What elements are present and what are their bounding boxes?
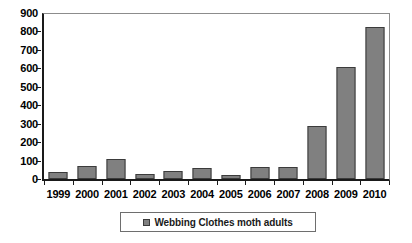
x-axis-tick-mark — [274, 181, 275, 185]
chart-legend: Webbing Clothes moth adults — [120, 212, 316, 232]
x-axis-tick-label: 2005 — [219, 188, 243, 201]
x-axis-tick-mark — [245, 181, 246, 185]
bar — [221, 175, 240, 179]
x-axis-tick-mark — [130, 181, 131, 185]
x-axis-tick-label: 2002 — [133, 188, 157, 201]
y-axis-tick-label: 400 — [0, 100, 38, 111]
bar — [336, 67, 355, 179]
bar — [135, 174, 154, 179]
bar — [164, 171, 183, 179]
bar-slot — [73, 13, 102, 179]
legend-swatch-icon — [143, 219, 150, 226]
y-axis-tick-label: 200 — [0, 137, 38, 148]
y-axis-tick-label: 700 — [0, 45, 38, 56]
x-axis-tick-mark — [188, 181, 189, 185]
bar-slot — [245, 13, 274, 179]
y-axis-tick-label: 300 — [0, 119, 38, 130]
bar-slot — [102, 13, 131, 179]
x-axis-tick-mark — [217, 181, 218, 185]
x-axis-tick-label: 1999 — [47, 188, 71, 201]
x-axis: 1999200020012002200320042005200620072008… — [44, 188, 389, 204]
x-axis-tick-label: 2007 — [277, 188, 301, 201]
y-axis-tick-mark — [36, 68, 41, 69]
y-axis-tick-mark — [36, 179, 41, 180]
legend-entry-label: Webbing Clothes moth adults — [154, 217, 292, 228]
bar — [106, 159, 125, 179]
x-axis-tick-mark — [44, 181, 45, 185]
bar-slot — [44, 13, 73, 179]
bar-slot — [217, 13, 246, 179]
x-axis-tick-label: 2009 — [334, 188, 358, 201]
y-axis-tick-label: 500 — [0, 82, 38, 93]
x-axis-tick-mark — [389, 181, 390, 185]
x-axis-tick-mark — [360, 181, 361, 185]
bar — [250, 167, 269, 179]
bar — [365, 27, 384, 179]
bar-slot — [303, 13, 332, 179]
bar-slot — [188, 13, 217, 179]
bar — [279, 167, 298, 179]
x-axis-tick-mark — [73, 181, 74, 185]
bar — [78, 166, 97, 179]
bars-layer — [44, 13, 389, 179]
x-axis-tick-label: 2001 — [104, 188, 128, 201]
y-axis-tick-label: 900 — [0, 8, 38, 19]
y-axis-tick-mark — [36, 105, 41, 106]
y-axis-tick-mark — [36, 161, 41, 162]
x-axis-tick-label: 2004 — [190, 188, 214, 201]
y-axis-tick-label: 100 — [0, 156, 38, 167]
bar-slot — [274, 13, 303, 179]
y-axis-tick-mark — [36, 87, 41, 88]
y-axis-tick-mark — [36, 31, 41, 32]
x-axis-tick-label: 2006 — [248, 188, 272, 201]
x-axis-tick-label: 2003 — [162, 188, 186, 201]
x-axis-tick-mark — [159, 181, 160, 185]
x-axis-tick-mark — [332, 181, 333, 185]
bar-slot — [360, 13, 389, 179]
x-axis-tick-label: 2000 — [75, 188, 99, 201]
x-axis-tick-mark — [102, 181, 103, 185]
y-axis-tick-label: 800 — [0, 26, 38, 37]
bar-chart-figure: 9008007006005004003002001000 19992000200… — [0, 0, 412, 243]
bar — [193, 168, 212, 179]
y-axis-tick-mark — [36, 124, 41, 125]
x-axis-tick-label: 2008 — [305, 188, 329, 201]
x-axis-ticks — [44, 181, 389, 186]
x-axis-tick-label: 2010 — [363, 188, 387, 201]
y-axis-tick-label: 0 — [0, 174, 38, 185]
bar — [308, 126, 327, 179]
y-axis-tick-mark — [36, 142, 41, 143]
y-axis-tick-mark — [36, 50, 41, 51]
x-axis-tick-mark — [303, 181, 304, 185]
y-axis-tick-label: 600 — [0, 63, 38, 74]
bar-slot — [130, 13, 159, 179]
y-axis: 9008007006005004003002001000 — [0, 13, 38, 181]
bar-slot — [159, 13, 188, 179]
bar — [49, 172, 68, 179]
bar-slot — [332, 13, 361, 179]
